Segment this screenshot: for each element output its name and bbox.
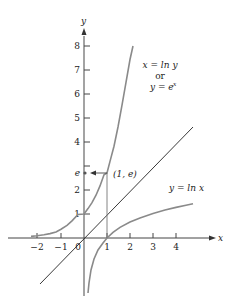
y-tick-label: 6 bbox=[74, 89, 80, 99]
x-axis-arrow-icon bbox=[209, 236, 216, 241]
x-tick-label: 2 bbox=[127, 242, 133, 252]
e-point-dot bbox=[83, 171, 86, 174]
exp-label-superscript: x bbox=[173, 80, 177, 87]
ln-label: y = ln x bbox=[168, 183, 204, 193]
y-axis-arrow-icon bbox=[82, 28, 87, 35]
x-axis-label: x bbox=[218, 233, 223, 243]
y-tick-label-e: e bbox=[75, 168, 80, 178]
exp-label-line1: x = ln y bbox=[143, 60, 179, 70]
y-tick-label: 8 bbox=[74, 41, 80, 51]
x-tick-label: −2 bbox=[30, 242, 43, 252]
x-tick-label: 1 bbox=[104, 242, 110, 252]
y-tick-label: 5 bbox=[74, 113, 80, 123]
identity-line bbox=[40, 127, 193, 284]
y-tick-label: 2 bbox=[74, 185, 80, 195]
x-tick-label: 3 bbox=[150, 242, 156, 252]
exp-label-line2: or bbox=[155, 71, 165, 81]
x-tick-label: −1 bbox=[54, 242, 67, 252]
y-axis-label: y bbox=[80, 16, 87, 26]
exp-label-line3: y = e bbox=[149, 82, 174, 92]
y-tick-label: 4 bbox=[74, 137, 80, 147]
arrow-left-icon bbox=[90, 171, 96, 176]
point-label: (1, e) bbox=[113, 169, 137, 179]
y-tick-label: 7 bbox=[74, 65, 80, 75]
x-tick-label: 4 bbox=[173, 242, 179, 252]
exp-curve bbox=[31, 46, 133, 236]
exp-log-diagram: x −2 −1 0 1 2 3 4 y 1 2 e 4 5 6 7 8 bbox=[0, 0, 231, 304]
y-axis: y 1 2 e 4 5 6 7 8 bbox=[74, 16, 90, 296]
